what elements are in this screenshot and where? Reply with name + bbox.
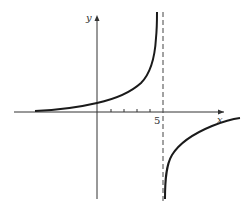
x-tick-label-5: 5 bbox=[154, 115, 160, 126]
function-graph: y x 5 bbox=[0, 0, 250, 209]
y-axis-label: y bbox=[85, 12, 92, 23]
curve-left-branch bbox=[35, 12, 157, 111]
y-axis-arrow-icon bbox=[95, 15, 100, 21]
curve-right-branch bbox=[165, 118, 240, 199]
